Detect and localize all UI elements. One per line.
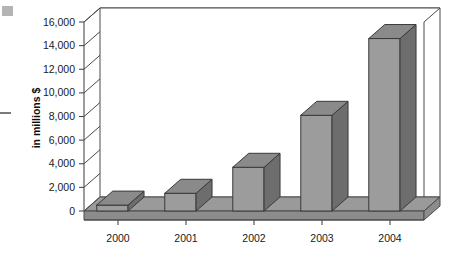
y-tick-label: 2,000 [49,181,75,193]
y-tick-label: 10,000 [43,86,75,98]
y-tick-label: 4,000 [49,157,75,169]
x-tick-label-2000: 2000 [106,232,130,244]
bar-chart-3d: 02,0004,0006,0008,00010,00012,00014,0001… [0,0,454,256]
y-tick-label: 16,000 [43,16,75,28]
y-axis-title: in millions $ [30,88,42,149]
x-tick-label-2003: 2003 [310,232,334,244]
bar-2004 [369,25,416,211]
x-tick-label-2002: 2002 [242,232,266,244]
y-tick-label: 8,000 [49,110,75,122]
bar-2003 [301,101,348,211]
y-tick-label: 6,000 [49,134,75,146]
chart-canvas: 02,0004,0006,0008,00010,00012,00014,0001… [0,0,454,256]
x-tick-labels-group: 20002001200220032004 [106,232,402,244]
y-tick-labels-group: 02,0004,0006,0008,00010,00012,00014,0001… [43,16,75,217]
y-tick-label: 12,000 [43,63,75,75]
y-tick-label: 0 [69,205,75,217]
y-tick-label: 14,000 [43,39,75,51]
bar-2002 [233,153,280,211]
x-tick-label-2004: 2004 [378,232,402,244]
x-tick-label-2001: 2001 [174,232,198,244]
